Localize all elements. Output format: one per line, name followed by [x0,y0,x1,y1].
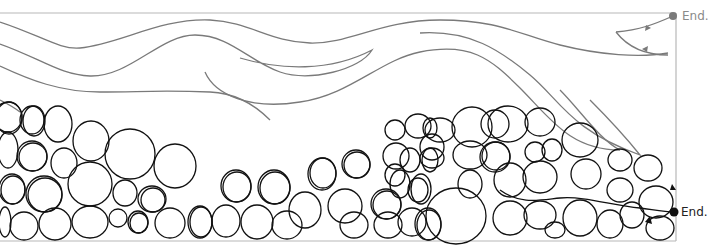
streamline-1 [0,20,668,55]
turbulent-end-label: End. [681,205,708,219]
laminar-end-dot [669,12,677,20]
laminar-end-label: End. [682,9,709,23]
streamline-3 [0,66,270,120]
flow-diagram-svg [0,0,712,247]
streamline-2 [0,35,372,76]
turbulent-end-dot [670,208,679,217]
arrowhead-icon [670,184,676,190]
flow-diagram: End. End. [0,0,712,247]
return-curve-lower [616,32,668,55]
turbulent-eddies [0,102,674,244]
return-curve-upper [616,16,673,32]
laminar-streamlines [0,16,673,155]
